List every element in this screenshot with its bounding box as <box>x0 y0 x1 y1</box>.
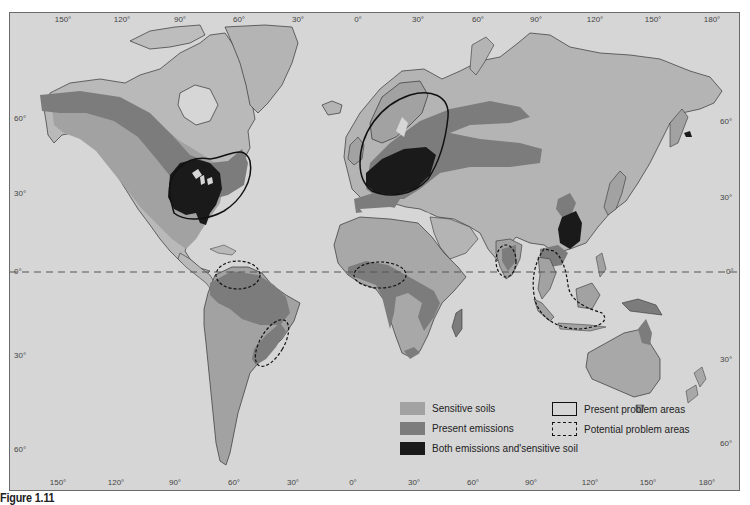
lon-label-top: 60° <box>233 15 245 24</box>
lat-label-left: 60° <box>14 114 26 123</box>
lon-label-top: 30° <box>292 15 304 24</box>
lon-label-top: 90° <box>174 15 186 24</box>
lat-label-right: 0° <box>726 267 734 276</box>
lon-label-top: 180° <box>704 15 721 24</box>
lat-label-right: 30° <box>720 193 732 202</box>
lat-label-right: 60° <box>720 117 732 126</box>
lon-label-bottom: 150° <box>50 478 67 487</box>
lon-label-top: 120° <box>587 15 604 24</box>
legend-label: Present problem areas <box>584 404 685 415</box>
lon-label-bottom: 150° <box>640 478 657 487</box>
legend-item-present-problem: Present problem areas <box>552 402 685 416</box>
lon-label-top: 150° <box>55 15 72 24</box>
lon-label-top: 30° <box>412 15 424 24</box>
legend-item-present-emissions: Present emissions <box>400 422 514 435</box>
lon-label-bottom: 60° <box>228 478 240 487</box>
sensitive-soils-swatch <box>400 402 425 415</box>
lon-label-bottom: 0° <box>349 478 357 487</box>
lon-label-top: 150° <box>645 15 662 24</box>
dashed-outline-swatch <box>552 422 577 436</box>
solid-outline-swatch <box>552 402 577 416</box>
lon-label-bottom: 120° <box>582 478 599 487</box>
lon-label-top: 90° <box>530 15 542 24</box>
legend-label: Sensitive soils <box>432 403 495 414</box>
lon-label-bottom: 60° <box>467 478 479 487</box>
lon-label-bottom: 30° <box>287 478 299 487</box>
lon-label-bottom: 90° <box>169 478 181 487</box>
lon-label-top: 120° <box>114 15 131 24</box>
legend-label: Both emissions and'sensitive soil <box>432 443 578 454</box>
legend-label: Potential problem areas <box>584 424 690 435</box>
legend-item-sensitive-soils: Sensitive soils <box>400 402 495 415</box>
present-emissions-swatch <box>400 422 425 435</box>
lon-label-top: 60° <box>472 15 484 24</box>
lat-label-right: 30° <box>720 355 732 364</box>
lat-label-left: 30° <box>14 189 26 198</box>
figure-caption: Figure 1.11 <box>0 491 54 505</box>
lat-label-left: 30° <box>14 351 26 360</box>
lon-label-top: 0° <box>354 15 362 24</box>
map-legend: Sensitive soils Present emissions Both e… <box>400 400 740 460</box>
lon-label-bottom: 120° <box>108 478 125 487</box>
both-swatch <box>400 442 425 455</box>
lon-label-bottom: 90° <box>525 478 537 487</box>
lat-label-left: 0° <box>14 267 22 276</box>
legend-label: Present emissions <box>432 423 514 434</box>
legend-item-both: Both emissions and'sensitive soil <box>400 442 578 455</box>
lat-label-left: 60° <box>14 445 26 454</box>
lon-label-bottom: 180° <box>699 478 716 487</box>
legend-item-potential-problem: Potential problem areas <box>552 422 690 436</box>
lon-label-bottom: 30° <box>408 478 420 487</box>
